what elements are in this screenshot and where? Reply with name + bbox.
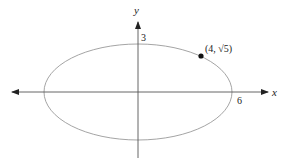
y-axis-label: y: [133, 4, 139, 16]
y-intercept-label: 3: [141, 32, 146, 43]
x-intercept-label: 6: [237, 95, 242, 106]
point-marker: [198, 53, 203, 58]
ellipse-diagram: y x 3 6 (4, √5): [0, 0, 283, 158]
x-axis-label: x: [271, 86, 277, 98]
point-label: (4, √5): [205, 43, 232, 55]
